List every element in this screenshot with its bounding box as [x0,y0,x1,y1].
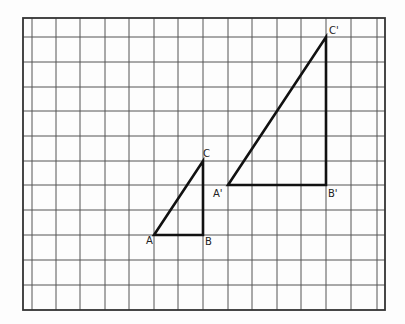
vertex-label: C [203,148,210,159]
vertex-label: B [205,236,212,247]
vertex-label: A' [213,188,223,199]
vertex-label: C' [329,25,339,36]
vertex-label: A [146,235,153,246]
grid-diagram: ABCA'B'C' [0,0,405,324]
vertex-label: B' [328,188,338,199]
